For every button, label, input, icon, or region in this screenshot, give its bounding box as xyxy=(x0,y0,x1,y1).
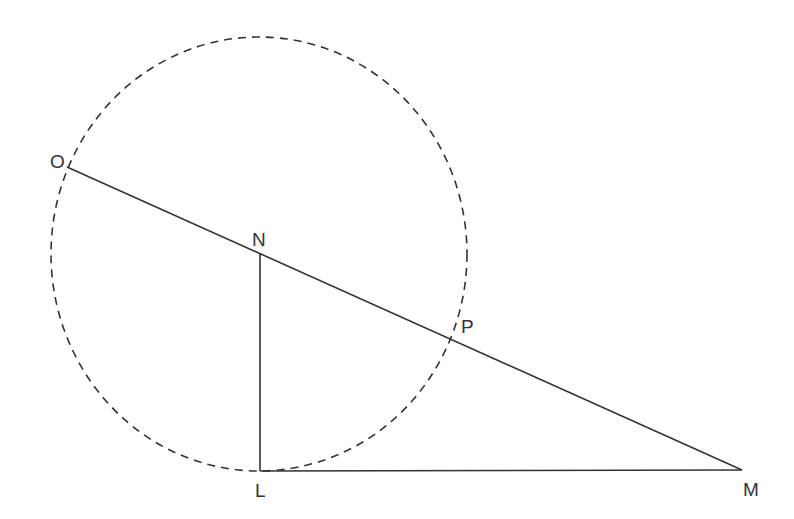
segment-L-M xyxy=(260,470,742,471)
segment-O-M xyxy=(67,167,742,470)
geometry-diagram: O N P L M xyxy=(0,0,794,519)
point-label-L: L xyxy=(255,480,266,501)
point-label-N: N xyxy=(252,229,266,250)
point-label-P: P xyxy=(461,316,474,337)
point-label-M: M xyxy=(743,479,759,500)
point-label-O: O xyxy=(50,151,65,172)
